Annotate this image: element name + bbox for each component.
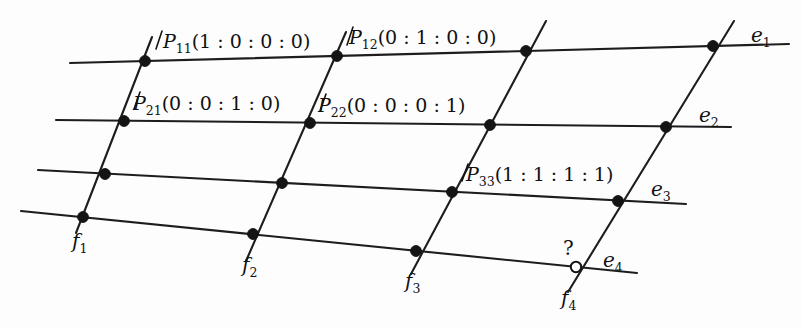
projective-grid-figure: P11(1 : 0 : 0 : 0) P12(0 : 1 : 0 : 0) P2… — [0, 0, 802, 327]
label-P12-name: P — [348, 26, 363, 48]
label-f1-subscript: 1 — [79, 241, 87, 256]
intersection-nodes-group — [78, 41, 719, 273]
line-f3[interactable] — [411, 21, 546, 274]
node-f2-e2[interactable] — [305, 118, 316, 129]
node-f2-e3[interactable] — [277, 178, 288, 189]
label-P22-coords: (0 : 0 : 0 : 1) — [347, 94, 466, 116]
node-f3-e3[interactable] — [447, 187, 458, 198]
label-P12-subscript: 12 — [362, 37, 378, 52]
label-f2-subscript: 2 — [249, 265, 257, 280]
diagram-root: P11(1 : 0 : 0 : 0) P12(0 : 1 : 0 : 0) P2… — [0, 0, 802, 327]
label-e4: e4 — [603, 248, 623, 275]
line-e4[interactable] — [21, 211, 637, 273]
node-f3-e1[interactable] — [521, 46, 532, 57]
line-e2[interactable] — [56, 120, 731, 127]
label-f3: f3 — [403, 269, 420, 296]
node-f3-e2[interactable] — [485, 120, 496, 131]
label-e3-name: e — [651, 177, 663, 201]
label-P22-subscript: 22 — [331, 105, 347, 120]
label-P12-coords: (0 : 1 : 0 : 0) — [378, 26, 497, 48]
label-e2: e2 — [699, 103, 719, 130]
line-f1[interactable] — [76, 37, 152, 233]
label-P33-coords: (1 : 1 : 1 : 1) — [495, 163, 614, 185]
label-e1-subscript: 1 — [763, 35, 771, 50]
label-f1: f1 — [70, 229, 87, 256]
label-P21-name: P — [132, 92, 147, 114]
line-f4[interactable] — [568, 21, 734, 292]
label-f3-subscript: 3 — [412, 281, 420, 296]
label-P12: P12(0 : 1 : 0 : 0) — [348, 26, 496, 52]
label-e3-subscript: 3 — [663, 189, 671, 204]
oblique-lines-group — [76, 21, 734, 292]
tick-p11 — [156, 31, 162, 49]
label-P21-subscript: 21 — [146, 103, 162, 118]
label-e2-name: e — [699, 103, 711, 127]
node-f3-e4[interactable] — [411, 246, 422, 257]
label-e1-name: e — [751, 23, 763, 47]
label-P22: P22(0 : 0 : 0 : 1) — [317, 94, 465, 120]
node-f2-e1[interactable] — [332, 51, 343, 62]
label-P21: P21(0 : 0 : 1 : 0) — [132, 92, 280, 118]
label-P22-name: P — [317, 94, 332, 116]
label-f4-subscript: 4 — [568, 298, 576, 313]
node-f1-e4[interactable] — [78, 212, 89, 223]
node-f4-e3[interactable] — [613, 196, 624, 207]
e-labels-group: e1 e2 e3 e4 — [603, 23, 771, 275]
label-e2-subscript: 2 — [711, 115, 719, 130]
label-P33-subscript: 33 — [479, 174, 495, 189]
node-f4-e4-unknown[interactable] — [571, 262, 581, 272]
node-f4-e2[interactable] — [661, 122, 672, 133]
node-f4-e1[interactable] — [708, 41, 719, 52]
node-f1-e3[interactable] — [100, 169, 111, 180]
label-e4-subscript: 4 — [615, 260, 623, 275]
node-f1-e2[interactable] — [119, 116, 130, 127]
line-f2[interactable] — [246, 32, 346, 261]
label-P33: P33(1 : 1 : 1 : 1) — [465, 163, 613, 189]
label-P33-name: P — [465, 163, 480, 185]
unknown-point-question-mark: ? — [563, 236, 574, 260]
label-P11-coords: (1 : 0 : 0 : 0) — [192, 30, 311, 52]
node-f1-e1[interactable] — [140, 56, 151, 67]
label-f4: f4 — [559, 286, 576, 313]
label-P21-coords: (0 : 0 : 1 : 0) — [162, 92, 281, 114]
label-P11-subscript: 11 — [176, 41, 192, 56]
label-P11-name: P — [162, 30, 177, 52]
label-e1: e1 — [751, 23, 771, 50]
node-f2-e4[interactable] — [248, 229, 259, 240]
label-f2: f2 — [240, 253, 257, 280]
label-P11: P11(1 : 0 : 0 : 0) — [162, 30, 310, 56]
label-e3: e3 — [651, 177, 671, 204]
label-e4-name: e — [603, 248, 615, 272]
